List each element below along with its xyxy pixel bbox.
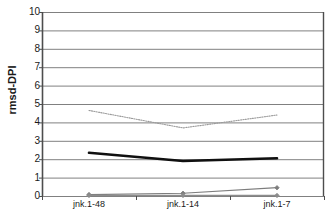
x-axis-tick-labels: jnk.1-48jnk.1-14jnk.1-7 bbox=[0, 0, 334, 218]
x-tick-label-0: jnk.1-48 bbox=[73, 199, 105, 209]
chart-container: rmsd-DPI 012345678910 jnk.1-48jnk.1-14jn… bbox=[0, 0, 334, 218]
x-tick-label-2: jnk.1-7 bbox=[263, 199, 290, 209]
x-tick-label-1: jnk.1-14 bbox=[167, 199, 199, 209]
